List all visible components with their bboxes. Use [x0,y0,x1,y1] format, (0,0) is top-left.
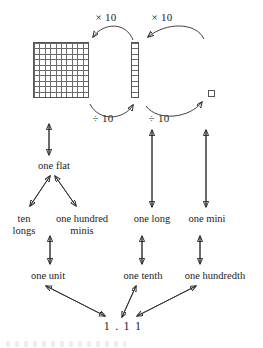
page-bottom-artifact [6,341,126,347]
arrow-one-unit-to-decimal-up [46,286,105,316]
arrow-one-tenth-to-decimal-up [122,286,136,317]
curve-multiply-flat-arrow [93,26,133,40]
diagram-canvas: × 10 × 10 ÷ 10 ÷ 10 one flat ten longs o… [0,0,263,348]
arrow-layer [0,0,263,348]
curve-divide-mini-arrow [146,102,202,116]
arrow-one-flat-to-ten-longs-up [30,176,50,206]
arrow-one-hundredth-to-decimal-up [137,286,196,316]
curve-multiply-long-arrow [148,26,204,39]
curve-divide-long-arrow [90,104,133,117]
arrow-one-flat-to-hundred-minis-up [55,176,76,206]
